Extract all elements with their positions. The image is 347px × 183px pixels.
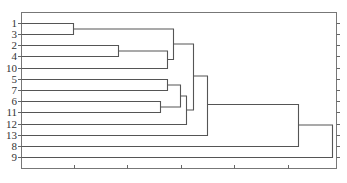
dendrogram-branches xyxy=(22,24,333,158)
leaf-labels: 1 3 2 4 10 5 7 6 11 12 13 8 9 xyxy=(6,17,18,163)
right-ticks xyxy=(337,24,341,158)
leaf-label: 9 xyxy=(12,151,18,163)
leaf-label: 11 xyxy=(6,106,17,118)
left-ticks xyxy=(18,24,22,158)
dendrogram-chart: 1 3 2 4 10 5 7 6 11 12 13 8 9 xyxy=(0,0,347,183)
leaf-label: 4 xyxy=(12,50,18,62)
bottom-ticks xyxy=(75,165,289,169)
